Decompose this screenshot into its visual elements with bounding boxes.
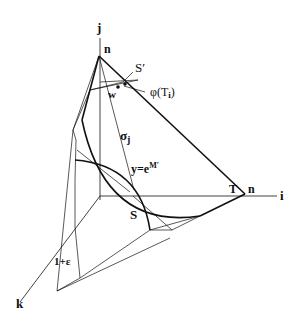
construction-lines: [57, 56, 200, 291]
label-w: w: [108, 88, 116, 100]
label-S-prime: S′: [135, 60, 145, 75]
label-T: T: [229, 182, 237, 196]
label-y-eq: y=eM′: [131, 161, 159, 176]
label-one-plus-epsilon: 1+ε: [54, 255, 71, 267]
label-S: S: [130, 207, 137, 222]
simplex-diagram: j i k n n S′ w φ(Ti) σj y=eM′ T S 1+ε: [0, 0, 302, 324]
axis-label-k: k: [16, 296, 24, 311]
point-w: [116, 85, 120, 89]
label-phi-T: φ(Ti): [150, 85, 175, 100]
axis-label-j: j: [96, 20, 101, 35]
axis-label-i: i: [280, 188, 284, 203]
label-sigma-j: σj: [120, 128, 130, 145]
label-n-right: n: [248, 182, 255, 196]
point-phi: [123, 82, 127, 86]
k-axis: [20, 196, 100, 302]
label-n-top: n: [104, 42, 111, 56]
